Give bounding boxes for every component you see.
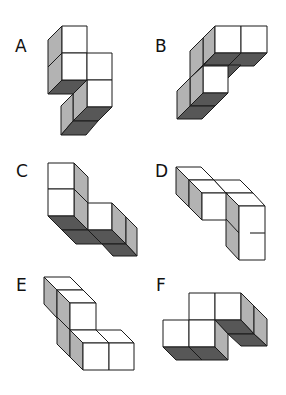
cube-figures [0,0,286,395]
figure-e-cubes [44,277,134,370]
figure-f-cubes [163,293,267,360]
figure-a-cubes [48,26,112,135]
figure-b-cubes [177,26,267,119]
figure-d-cubes [176,167,265,260]
figure-c-cubes [48,163,137,256]
